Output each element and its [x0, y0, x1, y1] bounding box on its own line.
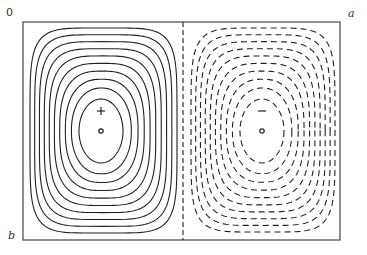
- center-point-icon: [260, 129, 264, 133]
- contour-line: [71, 88, 131, 174]
- contour-line: [215, 63, 309, 197]
- contour-line: [54, 63, 150, 198]
- center-point-icon: [99, 129, 103, 133]
- contour-line: [205, 49, 320, 212]
- contour-line: [240, 99, 284, 163]
- right-cell-contours: [191, 28, 335, 232]
- contour-line: [191, 28, 335, 232]
- contour-diagram: [0, 0, 367, 255]
- contour-line: [200, 42, 325, 219]
- contour-line: [65, 79, 138, 182]
- cell-markers: [97, 107, 266, 133]
- frame-border: [23, 22, 340, 240]
- contour-line: [226, 79, 298, 182]
- contour-line: [232, 88, 291, 174]
- frame: [23, 22, 340, 240]
